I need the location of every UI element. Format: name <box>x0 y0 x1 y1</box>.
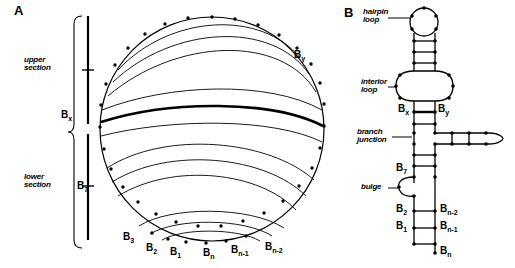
panel-b-graphics <box>0 0 515 268</box>
panel-b-label-bn1: Bn-1 <box>440 221 458 233</box>
panel-b-label-b1: B1 <box>396 221 407 233</box>
panel-b-nucleotide-dots <box>394 6 488 255</box>
panel-b-label-bn: Bn <box>440 246 452 258</box>
hairpin-loop-shape <box>410 8 438 36</box>
label-bulge: bulge <box>361 183 381 191</box>
panel-b-label-by: By <box>438 104 449 116</box>
panel-b-label-b7: B7 <box>396 163 407 175</box>
panel-b-label-b2: B2 <box>396 204 407 216</box>
bulge-shape <box>399 177 414 196</box>
panel-b-label-bx: Bx <box>398 104 409 116</box>
label-interior-loop: interior loop <box>361 78 387 95</box>
label-branch-junction: branch junction <box>357 128 387 145</box>
branch-hairpin-cap <box>489 133 503 144</box>
panel-b-label-bn2: Bn-2 <box>440 204 458 216</box>
figure-canvas: A <box>0 0 515 268</box>
label-hairpin-loop: hairpin loop <box>363 8 388 25</box>
interior-loop-shape <box>396 71 453 101</box>
